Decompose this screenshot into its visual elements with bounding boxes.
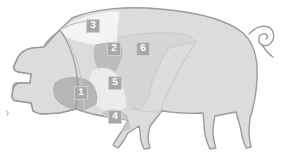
region-badge-3[interactable]: 3 — [86, 19, 100, 33]
region-badge-1[interactable]: 1 — [74, 86, 88, 100]
region-badge-6[interactable]: 6 — [136, 42, 150, 56]
pig-silhouette-illustration — [0, 0, 285, 158]
pig-cuts-diagram: 1 2 3 4 5 6 — [0, 0, 285, 158]
stray-mark — [6, 110, 9, 116]
region-badge-2[interactable]: 2 — [107, 42, 121, 56]
region-badge-5[interactable]: 5 — [108, 76, 122, 90]
region-badge-4[interactable]: 4 — [108, 110, 122, 124]
